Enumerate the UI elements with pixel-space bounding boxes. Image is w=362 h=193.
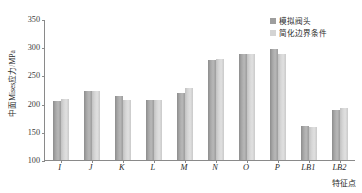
bar bbox=[84, 91, 92, 160]
bar bbox=[115, 96, 123, 160]
bar bbox=[53, 101, 61, 160]
y-axis-tick-mark bbox=[42, 133, 45, 134]
bar bbox=[309, 127, 317, 160]
bar bbox=[216, 59, 224, 160]
bar bbox=[208, 60, 216, 160]
bar bbox=[239, 54, 247, 160]
bar-group bbox=[146, 20, 162, 160]
x-axis-tick-label: LB2 bbox=[319, 163, 359, 172]
bar-group bbox=[208, 20, 224, 160]
bar bbox=[92, 91, 100, 160]
plot-area bbox=[44, 20, 355, 161]
legend-item: 简化边界条件 bbox=[270, 27, 362, 38]
bar-group bbox=[53, 20, 69, 160]
bar bbox=[177, 93, 185, 160]
y-axis-tick-labels: 100150200250300350 bbox=[12, 0, 40, 193]
y-axis-tick-mark bbox=[42, 76, 45, 77]
bar-group bbox=[115, 20, 131, 160]
bar-group bbox=[301, 20, 317, 160]
y-axis-tick-label: 250 bbox=[14, 71, 40, 80]
bar bbox=[247, 54, 255, 160]
y-axis-tick-mark bbox=[42, 20, 45, 21]
bar bbox=[340, 108, 348, 160]
y-axis-tick-mark bbox=[42, 105, 45, 106]
bars-layer bbox=[45, 20, 355, 160]
bar bbox=[154, 100, 162, 160]
legend-item: 模拟阀头 bbox=[270, 15, 362, 26]
bar bbox=[278, 54, 286, 160]
bar bbox=[123, 100, 131, 160]
bar-group bbox=[177, 20, 193, 160]
bar bbox=[332, 110, 340, 160]
bar-group bbox=[239, 20, 255, 160]
legend-label: 模拟阀头 bbox=[279, 15, 311, 26]
x-axis-title: 特征点 bbox=[332, 177, 356, 188]
bar-chart: 中面Mises应力/MPa 100150200250300350 IJKLMNO… bbox=[0, 0, 362, 193]
bar bbox=[301, 126, 309, 160]
legend-label: 简化边界条件 bbox=[279, 27, 327, 38]
legend: 模拟阀头简化边界条件 bbox=[270, 15, 362, 39]
bar-group bbox=[270, 20, 286, 160]
bar bbox=[270, 49, 278, 160]
y-axis-tick-label: 350 bbox=[14, 15, 40, 24]
y-axis-tick-mark bbox=[42, 161, 45, 162]
legend-swatch-icon bbox=[270, 18, 276, 24]
y-axis-tick-label: 200 bbox=[14, 100, 40, 109]
bar-group bbox=[84, 20, 100, 160]
x-axis-tick-labels: IJKLMNOPLB1LB2 bbox=[44, 163, 355, 177]
legend-swatch-icon bbox=[270, 30, 276, 36]
bar-group bbox=[332, 20, 348, 160]
bar bbox=[61, 99, 69, 160]
bar bbox=[146, 100, 154, 160]
y-axis-tick-label: 150 bbox=[14, 128, 40, 137]
bar bbox=[185, 88, 193, 160]
y-axis-tick-mark bbox=[42, 48, 45, 49]
y-axis-tick-label: 100 bbox=[14, 156, 40, 165]
y-axis-tick-label: 300 bbox=[14, 43, 40, 52]
